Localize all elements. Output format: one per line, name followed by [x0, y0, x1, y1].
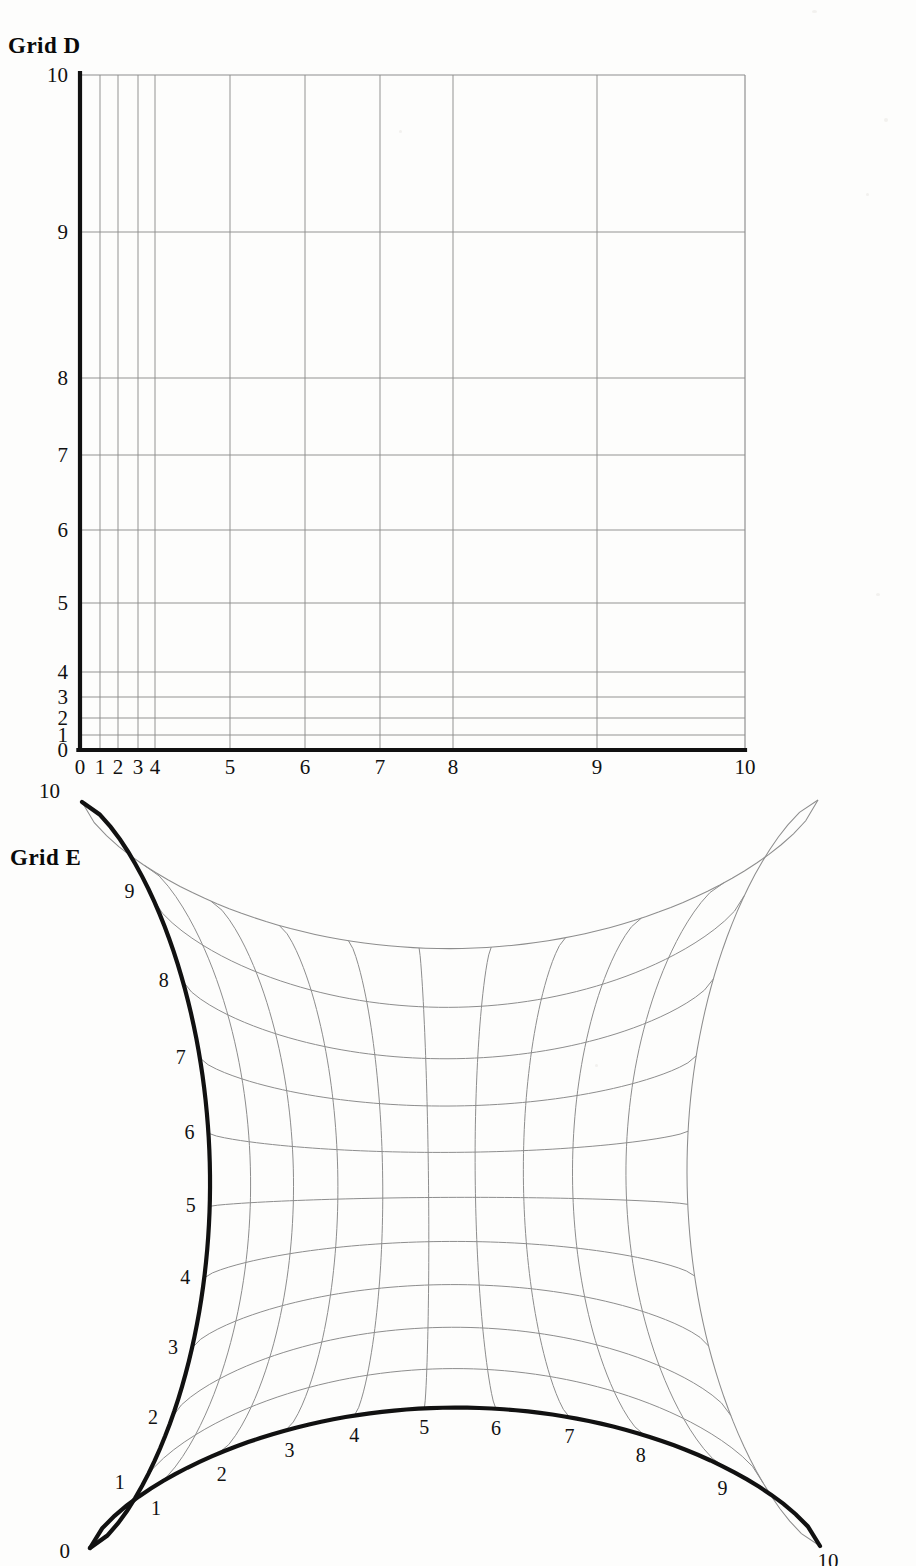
grid-e-v-curve [172, 1327, 731, 1417]
grid-e-u-curve [475, 947, 496, 1409]
grid-e-bottom-tick-label: 10 [818, 1549, 839, 1566]
scan-speck [876, 593, 880, 596]
figure-root: Grid D Grid E 012345678910012345678910 0… [0, 0, 916, 1566]
grid-d-y-tick-label: 2 [58, 706, 69, 730]
grid-e-bottom-tick-label: 7 [565, 1425, 575, 1447]
grid-e-top-boundary [82, 800, 818, 949]
grid-d-y-tick-label: 6 [58, 518, 69, 542]
scan-speck [399, 130, 402, 133]
grid-e-u-curve [145, 866, 251, 1488]
grid-d-y-tick-label: 9 [58, 220, 69, 244]
grid-d-plot: 012345678910012345678910 [0, 0, 916, 800]
grid-d-y-tick-label: 10 [47, 63, 68, 87]
grid-e-bottom-tick-label: 1 [151, 1497, 161, 1519]
grid-e-bottom-tick-label: 8 [636, 1444, 646, 1466]
grid-d-y-tick-label: 5 [58, 591, 69, 615]
scan-speck [884, 118, 888, 122]
grid-e-left-tick-label: 1 [115, 1471, 125, 1493]
grid-d-y-tick-label: 7 [58, 443, 69, 467]
grid-d-y-tick-label: 4 [58, 660, 69, 684]
grid-e-left-axis [82, 802, 210, 1548]
grid-e-left-tick-label: 5 [186, 1194, 196, 1216]
grid-e-left-tick-label: 0 [60, 1539, 71, 1563]
grid-e-v-curve [192, 1285, 709, 1348]
grid-e-left-tick-label: 2 [148, 1406, 158, 1428]
grid-e-left-tick-label: 9 [124, 880, 134, 902]
grid-d-y-tick-labels: 012345678910 [47, 63, 69, 762]
grid-e-bottom-tick-label: 6 [491, 1417, 501, 1439]
grid-e-u-curve [211, 901, 294, 1454]
grid-e-u-curve [419, 948, 429, 1408]
scan-speck [812, 10, 817, 13]
grid-e-u-curve [523, 938, 569, 1418]
grid-e-left-tick-label: 4 [180, 1266, 190, 1288]
grid-e-right-boundary [687, 800, 820, 1546]
grid-e-gridlines [82, 800, 820, 1546]
grid-e-u-curve [573, 918, 645, 1435]
grid-d-y-tick-label: 3 [58, 685, 69, 709]
grid-e-v-curve [200, 1056, 696, 1106]
grid-e-left-tick-label: 8 [159, 969, 169, 991]
grid-e-bottom-tick-label: 2 [217, 1463, 227, 1485]
scan-speck [595, 1064, 598, 1067]
grid-e-left-tick-labels: 012345678910 [39, 779, 196, 1563]
grid-e-v-curve [183, 979, 714, 1059]
grid-e-bottom-tick-label: 9 [718, 1477, 728, 1499]
grid-e-u-curve [279, 925, 338, 1430]
grid-e-bottom-tick-label: 5 [419, 1416, 429, 1438]
grid-e-left-tick-label: 6 [184, 1121, 194, 1143]
grid-e-v-curve [143, 1369, 763, 1485]
grid-e-v-curve [208, 1131, 688, 1152]
grid-e-u-curve [348, 941, 382, 1416]
grid-e-plot: 01234567891012345678910 [0, 776, 916, 1566]
grid-e-bottom-axis [90, 1408, 820, 1548]
grid-e-bottom-tick-label: 4 [349, 1424, 359, 1446]
grid-d-gridlines [80, 75, 745, 750]
grid-e-left-tick-label: 3 [168, 1336, 178, 1358]
grid-e-left-tick-label: 7 [176, 1046, 186, 1068]
grid-e-bottom-tick-label: 3 [285, 1439, 295, 1461]
grid-e-v-curve [204, 1241, 694, 1278]
grid-e-v-curve [210, 1197, 688, 1206]
grid-e-left-tick-label: 10 [39, 779, 60, 803]
grid-d-axes [78, 73, 745, 750]
scan-speck [866, 193, 869, 196]
grid-d-y-tick-label: 8 [58, 366, 69, 390]
